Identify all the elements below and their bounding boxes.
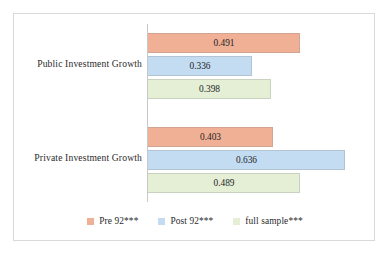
category-label-1: Private Investment Growth [14, 152, 142, 163]
bar-value-label: 0.491 [148, 33, 300, 53]
bar-value-label: 0.398 [148, 79, 271, 99]
legend-swatch-icon [87, 218, 94, 225]
bar-value-label: 0.636 [148, 150, 345, 170]
chart-frame: Public Investment Growth 0.491 0.336 0.3… [13, 13, 375, 241]
category-label-0: Public Investment Growth [14, 58, 142, 69]
legend-label: Post 92*** [170, 216, 213, 226]
bar-value-label: 0.336 [148, 56, 252, 76]
category-group: Private Investment Growth 0.403 0.636 0.… [14, 124, 376, 202]
legend-item-pre92[interactable]: Pre 92*** [87, 216, 138, 226]
plot-area: Public Investment Growth 0.491 0.336 0.3… [14, 14, 376, 207]
legend-swatch-icon [233, 218, 240, 225]
category-group: Public Investment Growth 0.491 0.336 0.3… [14, 30, 376, 108]
bar-value-label: 0.489 [148, 173, 300, 193]
legend-label: full sample*** [245, 216, 302, 226]
chart-legend: Pre 92*** Post 92*** full sample*** [14, 210, 376, 232]
legend-item-post92[interactable]: Post 92*** [158, 216, 213, 226]
legend-item-fullsample[interactable]: full sample*** [233, 216, 302, 226]
bar-value-label: 0.403 [148, 127, 273, 147]
legend-swatch-icon [158, 218, 165, 225]
legend-label: Pre 92*** [99, 216, 138, 226]
